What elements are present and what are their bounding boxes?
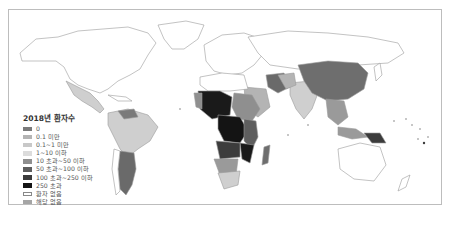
legend-item: 0.1 미만 (23, 133, 93, 141)
region-greenland (158, 21, 204, 49)
region-caribbean (108, 95, 132, 101)
region-argentina (118, 151, 136, 195)
legend-item: 50 초과~100 이하 (23, 165, 93, 173)
legend-swatch (23, 200, 32, 205)
legend-swatch (23, 192, 32, 197)
map-legend: 2018년 환자수 0 0.1 미만 0.1~1 미만 1~10 이하 10 초… (9, 112, 93, 206)
region-west-africa (198, 91, 232, 119)
legend-item: 0.1~1 미만 (23, 141, 93, 149)
legend-item: 0 (23, 125, 93, 133)
legend-label: 10 초과~50 이하 (36, 158, 85, 164)
legend-swatch (23, 127, 32, 132)
region-japan (374, 63, 382, 81)
legend-label: 50 초과~100 이하 (36, 166, 89, 172)
legend-label: 0.1~1 미만 (36, 142, 69, 148)
legend-swatch (23, 175, 32, 180)
legend-label: 1~10 이하 (36, 150, 67, 156)
region-se-asia (326, 99, 348, 125)
region-mozambique (240, 143, 254, 163)
legend-swatch (23, 135, 32, 140)
legend-swatch (23, 151, 32, 156)
legend-label: 250 초과 (36, 183, 62, 189)
region-angola-zambia (216, 141, 240, 159)
region-north-africa (200, 73, 248, 91)
region-papua (364, 133, 386, 143)
legend-item: 10 초과~50 이하 (23, 157, 93, 165)
legend-item: 250 초과 (23, 182, 93, 190)
legend-swatch (23, 143, 32, 148)
region-north-america (20, 27, 156, 93)
legend-item: 환자 없음 (23, 190, 93, 198)
region-indonesia (338, 127, 368, 139)
region-australia (338, 143, 386, 181)
legend-item: 해당 없음 (23, 198, 93, 206)
region-south-africa (218, 171, 240, 189)
region-madagascar (262, 145, 270, 165)
region-new-zealand (398, 175, 410, 191)
legend-label: 0 (36, 126, 40, 132)
legend-swatch (23, 159, 32, 164)
legend-label: 해당 없음 (36, 199, 62, 205)
legend-label: 환자 없음 (36, 191, 62, 197)
legend-item: 1~10 이하 (23, 149, 93, 157)
region-west-coast (194, 93, 202, 109)
legend-label: 100 초과~250 이하 (36, 175, 93, 181)
legend-item: 100 초과~250 이하 (23, 174, 93, 182)
legend-label: 0.1 미만 (36, 134, 60, 140)
legend-title: 2018년 환자수 (23, 112, 93, 123)
legend-swatch (23, 167, 32, 172)
legend-swatch (23, 183, 32, 188)
